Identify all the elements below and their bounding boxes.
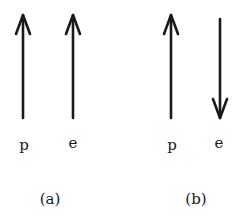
panel-b-p-label: p xyxy=(167,138,177,153)
panel-b-p-arrow-up-icon xyxy=(164,15,178,118)
panel-a-e-label: e xyxy=(69,136,78,151)
panel-a-e-arrow-up-icon xyxy=(66,15,80,118)
panel-b-e-arrow-down-icon xyxy=(213,19,227,118)
arrows-layer xyxy=(0,0,247,222)
panel-a-p-arrow-up-icon xyxy=(16,15,30,118)
panel-a-caption: (a) xyxy=(40,192,61,207)
panel-a-p-label: p xyxy=(19,138,29,153)
panel-b-e-label: e xyxy=(215,136,224,151)
panel-b-caption: (b) xyxy=(185,192,206,207)
spin-diagram: p e (a) p e (b) xyxy=(0,0,247,222)
